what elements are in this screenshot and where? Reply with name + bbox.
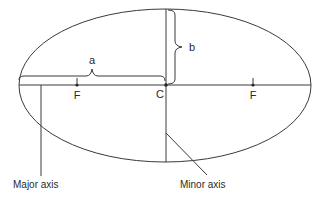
semi-minor-label: b bbox=[189, 41, 195, 53]
semi-minor-brace bbox=[168, 10, 182, 84]
ellipse-diagram: a b C F F Major axis Minor axis bbox=[0, 0, 325, 199]
focus-right-label: F bbox=[250, 89, 257, 101]
major-axis-label: Major axis bbox=[13, 179, 59, 190]
minor-axis-pointer bbox=[166, 133, 207, 175]
center-point bbox=[164, 83, 168, 87]
minor-axis-label: Minor axis bbox=[180, 179, 226, 190]
semi-major-label: a bbox=[89, 54, 96, 66]
focus-left-label: F bbox=[74, 89, 81, 101]
semi-major-brace bbox=[19, 69, 165, 81]
center-label: C bbox=[156, 88, 164, 100]
